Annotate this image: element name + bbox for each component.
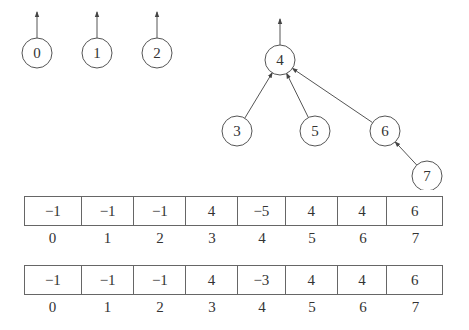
array-cell: −1 xyxy=(82,266,135,294)
parent-edge xyxy=(395,142,417,165)
array-index: 5 xyxy=(286,230,338,248)
array-index: 3 xyxy=(186,230,238,248)
index-row-before: 01234567 xyxy=(24,230,443,248)
array-index: 2 xyxy=(134,230,186,248)
array-cell: 4 xyxy=(186,197,238,225)
node-label: 7 xyxy=(423,168,431,184)
node-label: 2 xyxy=(153,45,161,61)
array-index: 7 xyxy=(388,230,443,248)
node-1: 1 xyxy=(82,38,112,68)
array-cell: −1 xyxy=(25,197,82,225)
array-cell: 6 xyxy=(387,266,442,294)
node-label: 0 xyxy=(33,45,41,61)
node-0: 0 xyxy=(22,38,52,68)
array-index: 3 xyxy=(186,299,238,317)
array-index: 0 xyxy=(24,299,81,317)
nodes: 01243567 xyxy=(22,38,442,190)
node-label: 5 xyxy=(311,123,319,139)
array-index: 0 xyxy=(24,230,81,248)
union-find-forest: 01243567 xyxy=(0,0,469,190)
array-cell: 4 xyxy=(338,197,388,225)
array-index: 1 xyxy=(81,230,134,248)
parent-edge xyxy=(245,73,272,118)
node-label: 1 xyxy=(93,45,101,61)
array-cell: 4 xyxy=(186,266,238,294)
array-cell: −5 xyxy=(238,197,286,225)
array-cell: 4 xyxy=(338,266,388,294)
node-2: 2 xyxy=(142,38,172,68)
array-cell: 4 xyxy=(286,197,338,225)
array-index: 6 xyxy=(338,299,388,317)
parent-array-after: −1−1−14−3446 xyxy=(24,265,443,295)
node-label: 6 xyxy=(381,123,389,139)
parent-edge xyxy=(292,68,372,122)
array-index: 5 xyxy=(286,299,338,317)
array-cell: −1 xyxy=(134,266,186,294)
array-index: 7 xyxy=(388,299,443,317)
index-row-after: 01234567 xyxy=(24,299,443,317)
node-label: 3 xyxy=(233,123,241,139)
array-index: 6 xyxy=(338,230,388,248)
array-cell: −1 xyxy=(82,197,135,225)
array-cell: 4 xyxy=(286,266,338,294)
node-label: 4 xyxy=(276,52,284,68)
node-4: 4 xyxy=(265,45,295,75)
parent-edge xyxy=(287,73,309,117)
array-index: 4 xyxy=(238,299,286,317)
array-cell: −1 xyxy=(134,197,186,225)
array-cell: 6 xyxy=(387,197,442,225)
node-7: 7 xyxy=(412,161,442,190)
array-index: 2 xyxy=(134,299,186,317)
array-index: 1 xyxy=(81,299,134,317)
array-cell: −1 xyxy=(25,266,82,294)
node-3: 3 xyxy=(222,116,252,146)
array-cell: −3 xyxy=(238,266,286,294)
array-index: 4 xyxy=(238,230,286,248)
parent-array-before: −1−1−14−5446 xyxy=(24,196,443,226)
node-5: 5 xyxy=(300,116,330,146)
node-6: 6 xyxy=(370,116,400,146)
